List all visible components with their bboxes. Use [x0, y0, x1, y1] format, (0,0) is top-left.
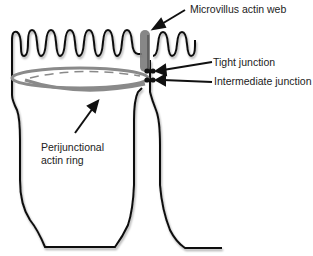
label-perijunctional-line1: Perijunctional: [41, 141, 104, 153]
intermediate-junction-dot: [144, 77, 149, 82]
right-cell: [150, 32, 222, 248]
label-intermediate-junction: Intermediate junction: [214, 75, 311, 87]
perijunctional-actin-ring: [12, 68, 148, 90]
label-microvillus-actin-web: Microvillus actin web: [190, 3, 286, 15]
label-perijunctional-line2: actin ring: [41, 154, 84, 166]
epithelial-cell-diagram: [0, 0, 313, 256]
left-cell: [12, 30, 142, 247]
tight-junction-dot: [144, 68, 149, 73]
label-tight-junction: Tight junction: [213, 56, 275, 68]
